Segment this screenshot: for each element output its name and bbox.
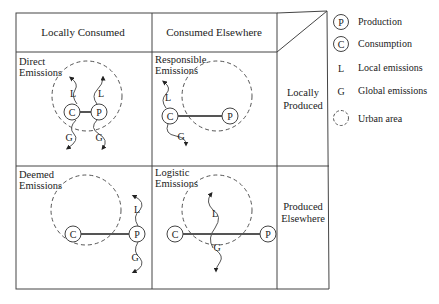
local-emission-label: L (134, 204, 140, 215)
global-emission-label: G (213, 242, 220, 253)
production-node-direct: P (91, 104, 107, 120)
production-node-deemed: P (129, 226, 145, 242)
production-node-logistic: P (260, 226, 276, 242)
cell-label-logistic-1: Logistic (155, 167, 190, 178)
row-header-locally-produced-1: Locally (287, 87, 320, 98)
svg-text:Local emissions: Local emissions (358, 62, 423, 73)
col-header-consumed-elsewhere: Consumed Elsewhere (166, 26, 262, 38)
svg-text:Global emissions: Global emissions (358, 85, 427, 96)
local-emission-label: L (212, 208, 218, 219)
production-node-responsible: P (222, 108, 238, 124)
legend: P Production C Consumption L Local emiss… (334, 15, 428, 126)
col-header-locally-consumed: Locally Consumed (41, 26, 125, 38)
global-emission-label: G (177, 131, 184, 142)
grid (16, 11, 329, 289)
global-emission-label: G (95, 132, 102, 143)
svg-text:C: C (167, 111, 174, 122)
consumption-node-direct: C (64, 104, 80, 120)
svg-text:C: C (69, 107, 76, 118)
svg-text:P: P (338, 17, 344, 28)
svg-text:Urban area: Urban area (358, 113, 403, 124)
consumption-node-logistic: C (167, 226, 183, 242)
svg-text:Consumption: Consumption (358, 38, 412, 49)
cell-label-logistic-2: Emissions (155, 178, 198, 189)
svg-text:C: C (172, 229, 179, 240)
svg-text:P: P (134, 229, 140, 240)
local-emission-label: L (165, 92, 171, 103)
row-header-produced-elsewhere-1: Produced (283, 201, 323, 212)
global-emission-label: G (131, 252, 138, 263)
svg-text:Production: Production (358, 16, 402, 27)
svg-text:P: P (96, 107, 102, 118)
cell-label-deemed-2: Emissions (19, 180, 62, 191)
svg-text:L: L (338, 63, 344, 74)
svg-text:P: P (227, 111, 233, 122)
local-emission-label: L (70, 88, 76, 99)
global-emission-label: G (65, 132, 72, 143)
emissions-diagram: Locally Consumed Consumed Elsewhere Loca… (0, 0, 439, 304)
local-emission-label: L (98, 88, 104, 99)
svg-text:G: G (337, 86, 344, 97)
cell-label-deemed-1: Deemed (19, 169, 55, 180)
urban-area-direct (52, 61, 122, 131)
cell-label-responsible-1: Responsible (155, 54, 207, 65)
svg-text:C: C (338, 39, 345, 50)
svg-text:P: P (265, 229, 271, 240)
cell-label-direct-2: Emissions (19, 67, 62, 78)
cell-label-responsible-2: Emissions (155, 65, 198, 76)
consumption-node-responsible: C (162, 108, 178, 124)
row-header-locally-produced-2: Produced (283, 100, 323, 111)
row-header-produced-elsewhere-2: Elsewhere (281, 213, 325, 224)
svg-text:C: C (70, 229, 77, 240)
cell-label-direct-1: Direct (19, 56, 45, 67)
consumption-node-deemed: C (65, 226, 81, 242)
